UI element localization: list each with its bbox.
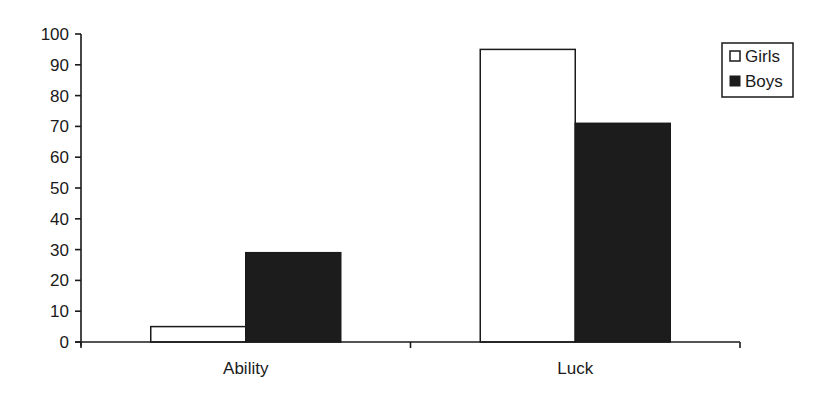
y-tick-label: 50 <box>50 179 69 198</box>
x-category-label: Ability <box>223 359 269 378</box>
y-tick-label: 100 <box>41 25 69 44</box>
y-tick-label: 40 <box>50 210 69 229</box>
bar-girls-ability <box>151 327 246 342</box>
bar-boys-luck <box>575 123 670 342</box>
y-tick-label: 0 <box>60 333 69 352</box>
y-tick-label: 90 <box>50 56 69 75</box>
bar-girls-luck <box>480 49 575 342</box>
legend-label-boys: Boys <box>745 72 783 91</box>
legend-label-girls: Girls <box>745 47 780 66</box>
y-tick-label: 10 <box>50 302 69 321</box>
y-tick-label: 30 <box>50 241 69 260</box>
x-axis: AbilityLuck <box>75 342 740 378</box>
y-tick-label: 20 <box>50 271 69 290</box>
bar-boys-ability <box>246 253 341 342</box>
bars <box>151 49 671 342</box>
legend-swatch-boys <box>730 76 740 86</box>
y-tick-label: 80 <box>50 87 69 106</box>
legend-swatch-girls <box>730 51 740 61</box>
bar-chart: 0102030405060708090100 AbilityLuck Girls… <box>0 0 832 395</box>
y-tick-label: 70 <box>50 117 69 136</box>
y-axis: 0102030405060708090100 <box>41 25 81 352</box>
legend: Girls Boys <box>722 43 793 97</box>
y-tick-label: 60 <box>50 148 69 167</box>
x-category-label: Luck <box>557 359 593 378</box>
